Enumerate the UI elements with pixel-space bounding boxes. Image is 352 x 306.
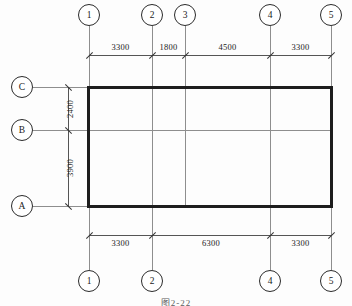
column-bubble-top-1[interactable]: 1 — [78, 4, 100, 26]
row-bubble-A[interactable]: A — [11, 195, 33, 217]
column-bubble-top-3[interactable]: 3 — [174, 4, 196, 26]
left-dim-text-1: 3900 — [65, 159, 75, 177]
column-bubble-bottom-1[interactable]: 1 — [78, 270, 100, 292]
figure-caption: 图2-22 — [0, 296, 352, 306]
bottom-dim-text-0: 3300 — [112, 238, 130, 248]
column-bubble-bottom-5[interactable]: 5 — [320, 270, 342, 292]
column-bubble-top-4[interactable]: 4 — [259, 4, 281, 26]
column-bubble-bottom-2[interactable]: 2 — [141, 270, 163, 292]
bottom-dimension-line — [89, 235, 331, 236]
wall-left — [87, 86, 90, 208]
row-bubble-B[interactable]: B — [11, 119, 33, 141]
bottom-dim-text-1: 6300 — [202, 238, 220, 248]
interior-grid-line-3 — [88, 130, 331, 131]
top-dim-text-2: 4500 — [219, 42, 237, 52]
row-bubble-C[interactable]: C — [11, 76, 33, 98]
top-dim-text-3: 3300 — [292, 42, 310, 52]
wall-bottom — [87, 205, 333, 208]
wall-right — [330, 86, 333, 208]
top-dim-text-1: 1800 — [160, 42, 178, 52]
column-bubble-top-5[interactable]: 5 — [320, 4, 342, 26]
wall-top — [87, 86, 333, 89]
top-dim-text-0: 3300 — [112, 42, 130, 52]
left-dim-text-0: 2400 — [65, 100, 75, 118]
floor-plan-drawing: 3300180045003300330063003300240039001234… — [0, 0, 352, 306]
column-bubble-bottom-4[interactable]: 4 — [259, 270, 281, 292]
column-bubble-top-2[interactable]: 2 — [141, 4, 163, 26]
bottom-dim-text-2: 3300 — [292, 238, 310, 248]
top-dimension-line — [89, 55, 331, 56]
